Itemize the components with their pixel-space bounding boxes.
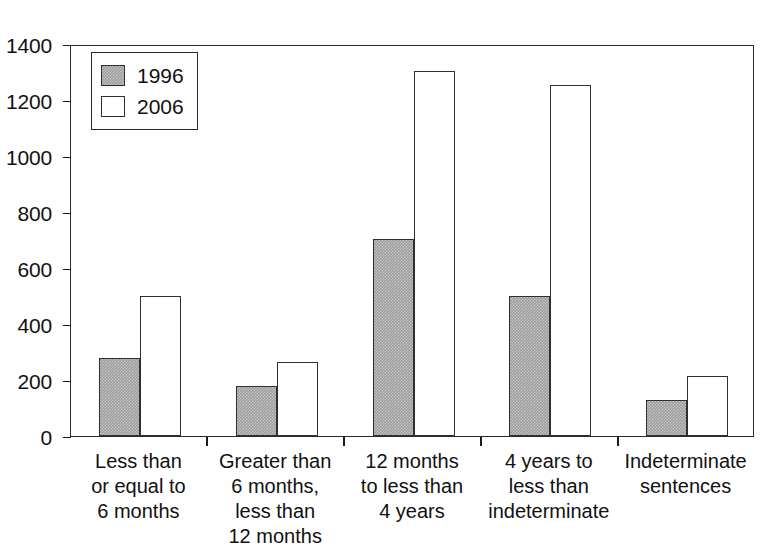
x-axis-label-3: 12 monthsto less than4 years xyxy=(344,449,481,524)
legend-label-1996: 1996 xyxy=(137,65,184,86)
legend-item-1996: 1996 xyxy=(101,60,184,91)
bar-1996-group-1[interactable] xyxy=(99,358,140,436)
x-axis-label-line: to less than xyxy=(344,474,481,499)
y-tick-label-800: 800 xyxy=(18,203,52,224)
y-tick-label-1000: 1000 xyxy=(6,147,52,168)
bar-1996-group-5[interactable] xyxy=(646,400,687,436)
bar-group-3 xyxy=(345,46,482,436)
x-tick-2 xyxy=(343,437,345,446)
bar-group-5 xyxy=(618,46,755,436)
x-axis-label-line: Greater than xyxy=(207,449,344,474)
y-tick-mark-0 xyxy=(63,437,71,438)
bar-2006-group-1[interactable] xyxy=(140,296,181,436)
x-axis-label-5: Indeterminatesentences xyxy=(617,449,754,499)
bar-2006-group-2[interactable] xyxy=(277,362,318,436)
bar-1996-group-2[interactable] xyxy=(236,386,277,436)
x-tick-1 xyxy=(206,437,208,446)
legend-swatch-2006 xyxy=(101,96,125,117)
x-axis-label-line: 6 months, xyxy=(207,474,344,499)
x-axis-label-1: Less thanor equal to6 months xyxy=(70,449,207,524)
bar-group-2 xyxy=(208,46,345,436)
bar-group-4 xyxy=(481,46,618,436)
x-axis-label-line: 4 years xyxy=(344,499,481,524)
y-tick-label-400: 400 xyxy=(18,315,52,336)
x-axis-label-line: or equal to xyxy=(70,474,207,499)
bar-chart: 1400 1200 1000 800 600 400 200 0 1996 20… xyxy=(0,0,775,560)
bar-1996-group-4[interactable] xyxy=(509,296,550,436)
x-axis-label-4: 4 years toless thanindeterminate xyxy=(480,449,617,524)
x-axis-label-line: Indeterminate xyxy=(617,449,754,474)
x-axis-label-line: 4 years to xyxy=(480,449,617,474)
bar-2006-group-4[interactable] xyxy=(550,85,591,436)
x-axis-label-line: indeterminate xyxy=(480,499,617,524)
x-axis-label-line: 12 months xyxy=(207,524,344,549)
x-tick-4 xyxy=(617,437,619,446)
bar-2006-group-3[interactable] xyxy=(414,71,455,436)
y-tick-label-1400: 1400 xyxy=(6,35,52,56)
bar-2006-group-5[interactable] xyxy=(687,376,728,436)
bar-1996-group-3[interactable] xyxy=(373,239,414,436)
y-tick-label-1200: 1200 xyxy=(6,91,52,112)
x-axis-label-line: Less than xyxy=(70,449,207,474)
y-tick-label-200: 200 xyxy=(18,371,52,392)
x-axis-labels: Less thanor equal to6 monthsGreater than… xyxy=(70,449,754,557)
y-tick-label-600: 600 xyxy=(18,259,52,280)
y-tick-label-0: 0 xyxy=(41,427,52,448)
x-axis-label-line: 12 months xyxy=(344,449,481,474)
y-axis: 1400 1200 1000 800 600 400 200 0 xyxy=(0,0,62,560)
x-axis-label-line: less than xyxy=(480,474,617,499)
x-axis-label-line: less than xyxy=(207,499,344,524)
legend-label-2006: 2006 xyxy=(137,96,184,117)
x-tick-3 xyxy=(480,437,482,446)
x-axis-label-line: sentences xyxy=(617,474,754,499)
legend-swatch-1996 xyxy=(101,65,125,86)
x-axis-label-line: 6 months xyxy=(70,499,207,524)
legend: 1996 2006 xyxy=(91,52,198,130)
x-axis-label-2: Greater than6 months,less than12 months xyxy=(207,449,344,549)
legend-item-2006: 2006 xyxy=(101,91,184,122)
